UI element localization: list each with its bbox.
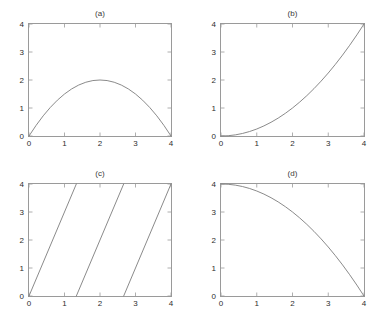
- plot-area-c: [28, 183, 172, 297]
- x-axis-tick-label: 1: [62, 139, 66, 148]
- plot-canvas-b: [221, 24, 364, 136]
- figure-canvas: (a)0123401234(b)0123401234(c)0123401234(…: [0, 0, 384, 321]
- y-axis-tick-label: 3: [202, 48, 216, 57]
- plot-panel-d: (d)0123401234: [194, 169, 365, 311]
- x-axis-tick-label: 4: [362, 139, 366, 148]
- plot-panel-b: (b)0123401234: [194, 9, 365, 151]
- x-axis-tick-label: 3: [133, 139, 137, 148]
- y-axis-tick-label: 2: [10, 76, 24, 85]
- y-axis-tick-label: 3: [202, 208, 216, 217]
- y-axis-tick-label: 1: [202, 264, 216, 273]
- x-axis-tick-label: 0: [219, 139, 223, 148]
- x-axis-tick-label: 2: [98, 299, 102, 308]
- y-axis-tick-label: 2: [10, 236, 24, 245]
- x-axis-tick-label: 3: [326, 139, 330, 148]
- y-axis-tick-label: 1: [202, 104, 216, 113]
- plot-area-d: [220, 183, 365, 297]
- y-axis-tick-label: 0: [10, 292, 24, 301]
- data-series-line: [29, 80, 171, 136]
- x-axis-tick-label: 2: [290, 139, 294, 148]
- y-axis-tick-label: 0: [10, 132, 24, 141]
- x-axis-tick-label: 1: [255, 139, 259, 148]
- y-axis-tick-label: 4: [10, 20, 24, 29]
- panel-title-c: (c): [28, 169, 172, 179]
- plot-area-a: [28, 23, 172, 137]
- y-axis-tick-label: 1: [10, 104, 24, 113]
- x-axis-tick-label: 4: [169, 299, 173, 308]
- data-series-line: [124, 184, 171, 296]
- x-axis-tick-label: 3: [326, 299, 330, 308]
- plot-panel-a: (a)0123401234: [2, 9, 172, 151]
- x-axis-tick-label: 1: [255, 299, 259, 308]
- y-axis-tick-label: 0: [202, 292, 216, 301]
- plot-canvas-a: [29, 24, 171, 136]
- panel-title-b: (b): [220, 9, 365, 19]
- y-axis-tick-label: 3: [10, 48, 24, 57]
- plot-canvas-c: [29, 184, 171, 296]
- x-axis-tick-label: 1: [62, 299, 66, 308]
- x-axis-tick-label: 0: [27, 139, 31, 148]
- data-series-line: [221, 184, 364, 296]
- y-axis-tick-label: 1: [10, 264, 24, 273]
- x-axis-tick-label: 3: [133, 299, 137, 308]
- data-series-line: [29, 184, 76, 296]
- x-axis-tick-label: 4: [362, 299, 366, 308]
- plot-panel-c: (c)0123401234: [2, 169, 172, 311]
- y-axis-tick-label: 4: [10, 180, 24, 189]
- panel-title-d: (d): [220, 169, 365, 179]
- y-axis-tick-label: 3: [10, 208, 24, 217]
- y-axis-tick-label: 4: [202, 180, 216, 189]
- y-axis-tick-label: 2: [202, 76, 216, 85]
- x-axis-tick-label: 0: [219, 299, 223, 308]
- x-axis-tick-label: 0: [27, 299, 31, 308]
- plot-area-b: [220, 23, 365, 137]
- y-axis-tick-label: 0: [202, 132, 216, 141]
- x-axis-tick-label: 2: [290, 299, 294, 308]
- panel-title-a: (a): [28, 9, 172, 19]
- y-axis-tick-label: 4: [202, 20, 216, 29]
- plot-canvas-d: [221, 184, 364, 296]
- x-axis-tick-label: 2: [98, 139, 102, 148]
- data-series-line: [76, 184, 123, 296]
- data-series-line: [221, 24, 364, 136]
- y-axis-tick-label: 2: [202, 236, 216, 245]
- x-axis-tick-label: 4: [169, 139, 173, 148]
